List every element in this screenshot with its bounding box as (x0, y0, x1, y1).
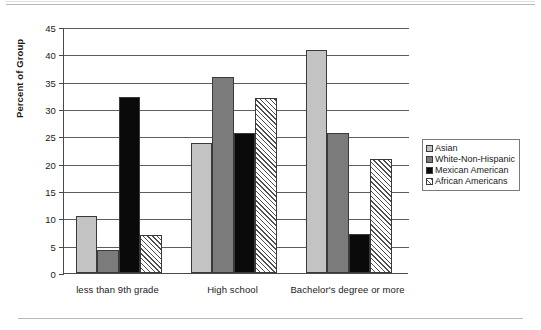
chart-legend: AsianWhite-Non-HispanicMexican AmericanA… (422, 139, 520, 191)
y-axis-tick (59, 165, 64, 166)
y-axis-tick-label: 0 (51, 269, 56, 280)
y-axis-tick-label: 30 (45, 105, 56, 116)
gridline (64, 28, 409, 29)
legend-item[interactable]: Mexican American (426, 165, 515, 176)
y-axis-tick-label: 25 (45, 132, 56, 143)
y-axis-tick-label: 35 (45, 77, 56, 88)
y-axis-tick-label: 5 (51, 241, 56, 252)
legend-swatch-icon (426, 178, 433, 185)
legend-swatch-icon (426, 156, 433, 163)
legend-item-label: Asian (435, 143, 458, 154)
bar (255, 98, 277, 273)
bar (119, 97, 141, 273)
gridline (64, 55, 409, 56)
bar (370, 159, 392, 273)
y-axis-tick (59, 55, 64, 56)
bar (234, 133, 256, 273)
y-axis-tick-label: 45 (45, 23, 56, 34)
bar (140, 235, 162, 273)
legend-item-label: Mexican American (435, 165, 509, 176)
top-hairline-rule (6, 1, 535, 2)
y-axis-tick (59, 28, 64, 29)
top-divider-rule (6, 4, 535, 5)
legend-item[interactable]: Asian (426, 143, 515, 154)
bar (212, 77, 234, 273)
y-axis-tick (59, 110, 64, 111)
y-axis-tick (59, 247, 64, 248)
gridline (64, 110, 409, 111)
y-axis-tick-label: 20 (45, 159, 56, 170)
y-axis-tick-label: 10 (45, 214, 56, 225)
legend-item-label: White-Non-Hispanic (435, 154, 515, 165)
gridline (64, 83, 409, 84)
legend-item[interactable]: African Americans (426, 176, 515, 187)
x-axis-category-label: Bachelor's degree or more (258, 284, 438, 295)
bar (97, 250, 119, 273)
bar (327, 133, 349, 273)
y-axis-tick (59, 137, 64, 138)
bottom-divider-rule (18, 318, 523, 319)
bar (306, 50, 328, 273)
bar (191, 143, 213, 273)
y-axis-title: Percent of Group (14, 39, 25, 118)
bar (349, 234, 371, 273)
plot-area: 051015202530354045 (63, 28, 408, 274)
legend-swatch-icon (426, 145, 433, 152)
legend-swatch-icon (426, 167, 433, 174)
legend-item[interactable]: White-Non-Hispanic (426, 154, 515, 165)
y-axis-tick (59, 192, 64, 193)
y-axis-tick (59, 274, 64, 275)
y-axis-tick (59, 83, 64, 84)
y-axis-tick-label: 40 (45, 50, 56, 61)
bar (76, 216, 98, 273)
y-axis-tick (59, 219, 64, 220)
bar-chart-figure: Percent of Group 051015202530354045 less… (0, 0, 541, 330)
y-axis-tick-label: 15 (45, 187, 56, 198)
legend-item-label: African Americans (435, 176, 508, 187)
